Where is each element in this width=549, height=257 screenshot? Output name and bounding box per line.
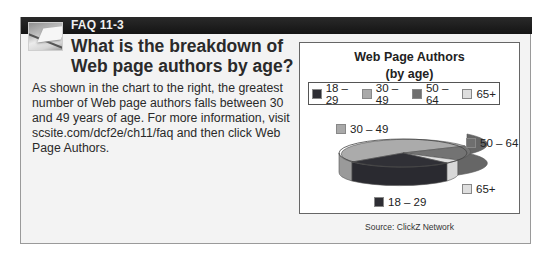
slice-label-text: 18 – 29 (388, 196, 426, 208)
slice-swatch-30-49 (336, 124, 346, 134)
slice-label-65plus: 65+ (462, 183, 496, 195)
slice-label-text: 65+ (476, 183, 496, 195)
slice-swatch-18-29 (374, 197, 384, 207)
slice-swatch-50-64 (466, 138, 476, 148)
slice-label-18-29: 18 – 29 (374, 196, 426, 208)
slice-swatch-65plus (462, 184, 472, 194)
slice-label-50-64: 50 – 64 (466, 137, 518, 149)
faq-question: What is the breakdown of Web page author… (71, 36, 311, 76)
book-page-icon (28, 22, 63, 51)
chart-source: Source: ClickZ Network (299, 222, 520, 232)
slice-label-30-49: 30 – 49 (336, 123, 388, 135)
pie-chart: Web Page Authors (by age) 18 – 29 30 – 4… (299, 42, 520, 214)
slice-label-text: 50 – 64 (480, 137, 518, 149)
faq-answer: As shown in the chart to the right, the … (32, 81, 294, 156)
faq-label: FAQ 11-3 (71, 18, 124, 32)
faq-header-bar: FAQ 11-3 (21, 17, 532, 34)
slice-label-text: 30 – 49 (350, 123, 388, 135)
faq-card: FAQ 11-3 What is the breakdown of Web pa… (20, 17, 531, 244)
